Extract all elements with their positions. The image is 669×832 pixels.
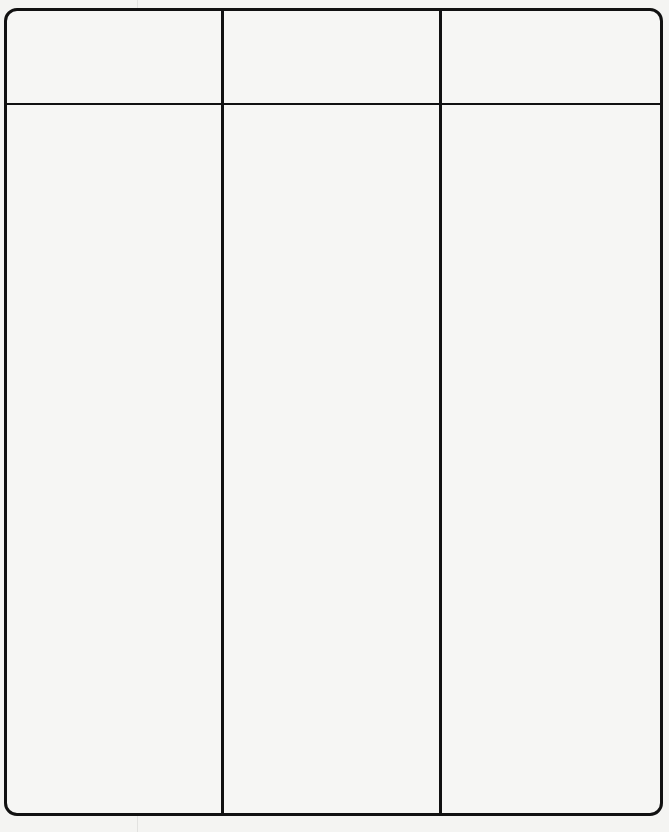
column-divider-2 (439, 11, 442, 813)
header-separator (7, 103, 660, 105)
header-cell-1 (15, 19, 215, 99)
blank-three-column-table (4, 8, 663, 816)
column-divider-1 (221, 11, 224, 813)
header-cell-3 (449, 19, 649, 99)
header-cell-2 (231, 19, 431, 99)
